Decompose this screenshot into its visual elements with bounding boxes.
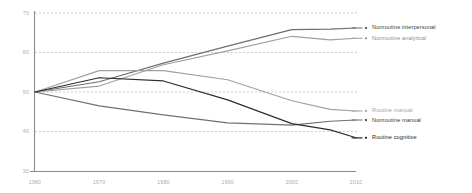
gridlines xyxy=(35,13,358,132)
y-tick-label: 60 xyxy=(23,49,29,55)
legend-marker-dot-nonroutine-manual xyxy=(365,119,367,121)
x-tick-label: 1990 xyxy=(221,179,233,185)
legend-label-routine-manual[interactable]: Routine manual xyxy=(372,107,413,113)
legend-marker-dot-routine-cognitive xyxy=(365,137,367,139)
y-tick-label: 30 xyxy=(23,168,29,174)
legend-label-routine-cognitive[interactable]: Routine cognitive xyxy=(372,134,417,140)
x-axis-tick-labels: 196019701980199020002010 xyxy=(29,179,362,185)
x-tick-label: 1970 xyxy=(93,179,105,185)
y-axis-tick-labels: 7060504030 xyxy=(23,10,29,174)
legend-marker-dot-routine-manual xyxy=(365,110,367,112)
series-line-nonroutine-manual xyxy=(35,92,356,125)
legend-label-nonroutine-interpersonal[interactable]: Nonroutine interpersonal xyxy=(372,24,436,30)
legend-marker-dot-nonroutine-interpersonal xyxy=(365,27,367,29)
y-tick-label: 50 xyxy=(23,89,29,95)
legend-marker-dot-nonroutine-analytical xyxy=(365,37,367,39)
chart-container: 7060504030 196019701980199020002010 Nonr… xyxy=(0,0,472,193)
legend-label-nonroutine-analytical[interactable]: Nonroutine analytical xyxy=(372,35,426,41)
x-tick-label: 2000 xyxy=(286,179,298,185)
y-tick-label: 40 xyxy=(23,128,29,134)
x-tick-label: 1960 xyxy=(29,179,41,185)
data-series-group xyxy=(35,28,356,138)
task-content-line-chart: 7060504030 196019701980199020002010 Nonr… xyxy=(0,0,472,193)
chart-legend: Nonroutine interpersonalNonroutine analy… xyxy=(352,24,436,140)
y-tick-label: 70 xyxy=(23,10,29,16)
series-line-routine-cognitive xyxy=(35,78,356,138)
x-tick-label: 1980 xyxy=(157,179,169,185)
x-tick-label: 2010 xyxy=(350,179,362,185)
series-line-nonroutine-analytical xyxy=(35,36,356,92)
legend-label-nonroutine-manual[interactable]: Nonroutine manual xyxy=(372,117,421,123)
